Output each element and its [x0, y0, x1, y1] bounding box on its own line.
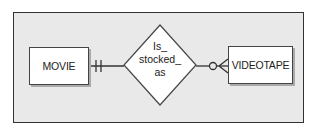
- relationship-label: Is_ stocked_ as: [124, 40, 196, 79]
- crows-foot-icon: [219, 59, 228, 66]
- entity-label: VIDEOTAPE: [232, 59, 290, 71]
- crows-foot-icon: [219, 66, 228, 73]
- optional-circle-icon: [210, 63, 217, 70]
- label-line: Is_: [124, 40, 196, 53]
- label-line: stocked_: [124, 53, 196, 66]
- entity-videotape[interactable]: VIDEOTAPE: [228, 46, 293, 84]
- label-line: as: [124, 66, 196, 79]
- entity-movie[interactable]: MOVIE: [29, 47, 89, 85]
- entity-label: MOVIE: [43, 60, 76, 72]
